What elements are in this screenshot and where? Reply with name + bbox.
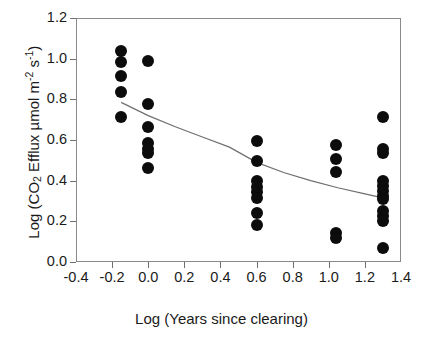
y-axis-title: Log (CO2 Efflux µmol m-2 s-1) [23, 12, 43, 272]
figure-scatter-co2-efflux: 0.00.20.40.60.81.01.2 -0.4-0.20.00.20.40… [0, 0, 443, 344]
y-tick-label: 0.6 [47, 131, 67, 147]
x-tick-mark [148, 262, 149, 268]
data-point [251, 192, 263, 204]
y-tick-mark [70, 140, 76, 141]
y-tick-label: 1.0 [47, 50, 67, 66]
second-exponent: -1 [23, 51, 35, 60]
x-tick-label: 1.4 [391, 269, 411, 285]
y-tick-label: 0.4 [47, 172, 67, 188]
data-point [377, 111, 389, 123]
x-tick-mark [329, 262, 330, 268]
data-point [115, 70, 127, 82]
x-tick-label: -0.4 [64, 269, 89, 285]
x-tick-label: 0.8 [283, 269, 303, 285]
y-tick-label: 1.2 [47, 9, 67, 25]
x-tick-mark [365, 262, 366, 268]
y-tick-mark [70, 99, 76, 100]
x-tick-label: 0.4 [210, 269, 230, 285]
data-point [115, 111, 127, 123]
data-point [330, 166, 342, 178]
y-tick-label: 0.2 [47, 212, 67, 228]
data-point [142, 121, 154, 133]
data-point [330, 232, 342, 244]
x-tick-label: 0.2 [174, 269, 194, 285]
x-tick-label: 0.6 [246, 269, 266, 285]
x-tick-mark [293, 262, 294, 268]
data-point [251, 219, 263, 231]
data-point [377, 193, 389, 205]
y-tick-label: 0.0 [47, 253, 67, 269]
y-tick-mark [70, 181, 76, 182]
data-point [142, 55, 154, 67]
x-tick-mark [184, 262, 185, 268]
y-tick-mark [70, 59, 76, 60]
data-point [251, 155, 263, 167]
x-tick-label: 0.0 [138, 269, 158, 285]
co2-subscript: 2 [31, 176, 43, 182]
x-tick-mark [257, 262, 258, 268]
data-point [330, 139, 342, 151]
x-axis-title: Log (Years since clearing) [0, 310, 443, 327]
y-tick-label: 0.8 [47, 90, 67, 106]
data-point [115, 56, 127, 68]
y-tick-mark [70, 18, 76, 19]
data-point [377, 242, 389, 254]
x-tick-mark [112, 262, 113, 268]
x-tick-label: 1.2 [355, 269, 375, 285]
data-point [251, 207, 263, 219]
data-point [115, 45, 127, 57]
meter-exponent: -2 [23, 72, 35, 81]
x-tick-label: 1.0 [319, 269, 339, 285]
x-tick-label: -0.2 [100, 269, 125, 285]
y-tick-mark [70, 262, 76, 263]
data-point [251, 135, 263, 147]
plot-area [76, 18, 401, 262]
y-tick-mark [70, 221, 76, 222]
x-tick-mark [220, 262, 221, 268]
